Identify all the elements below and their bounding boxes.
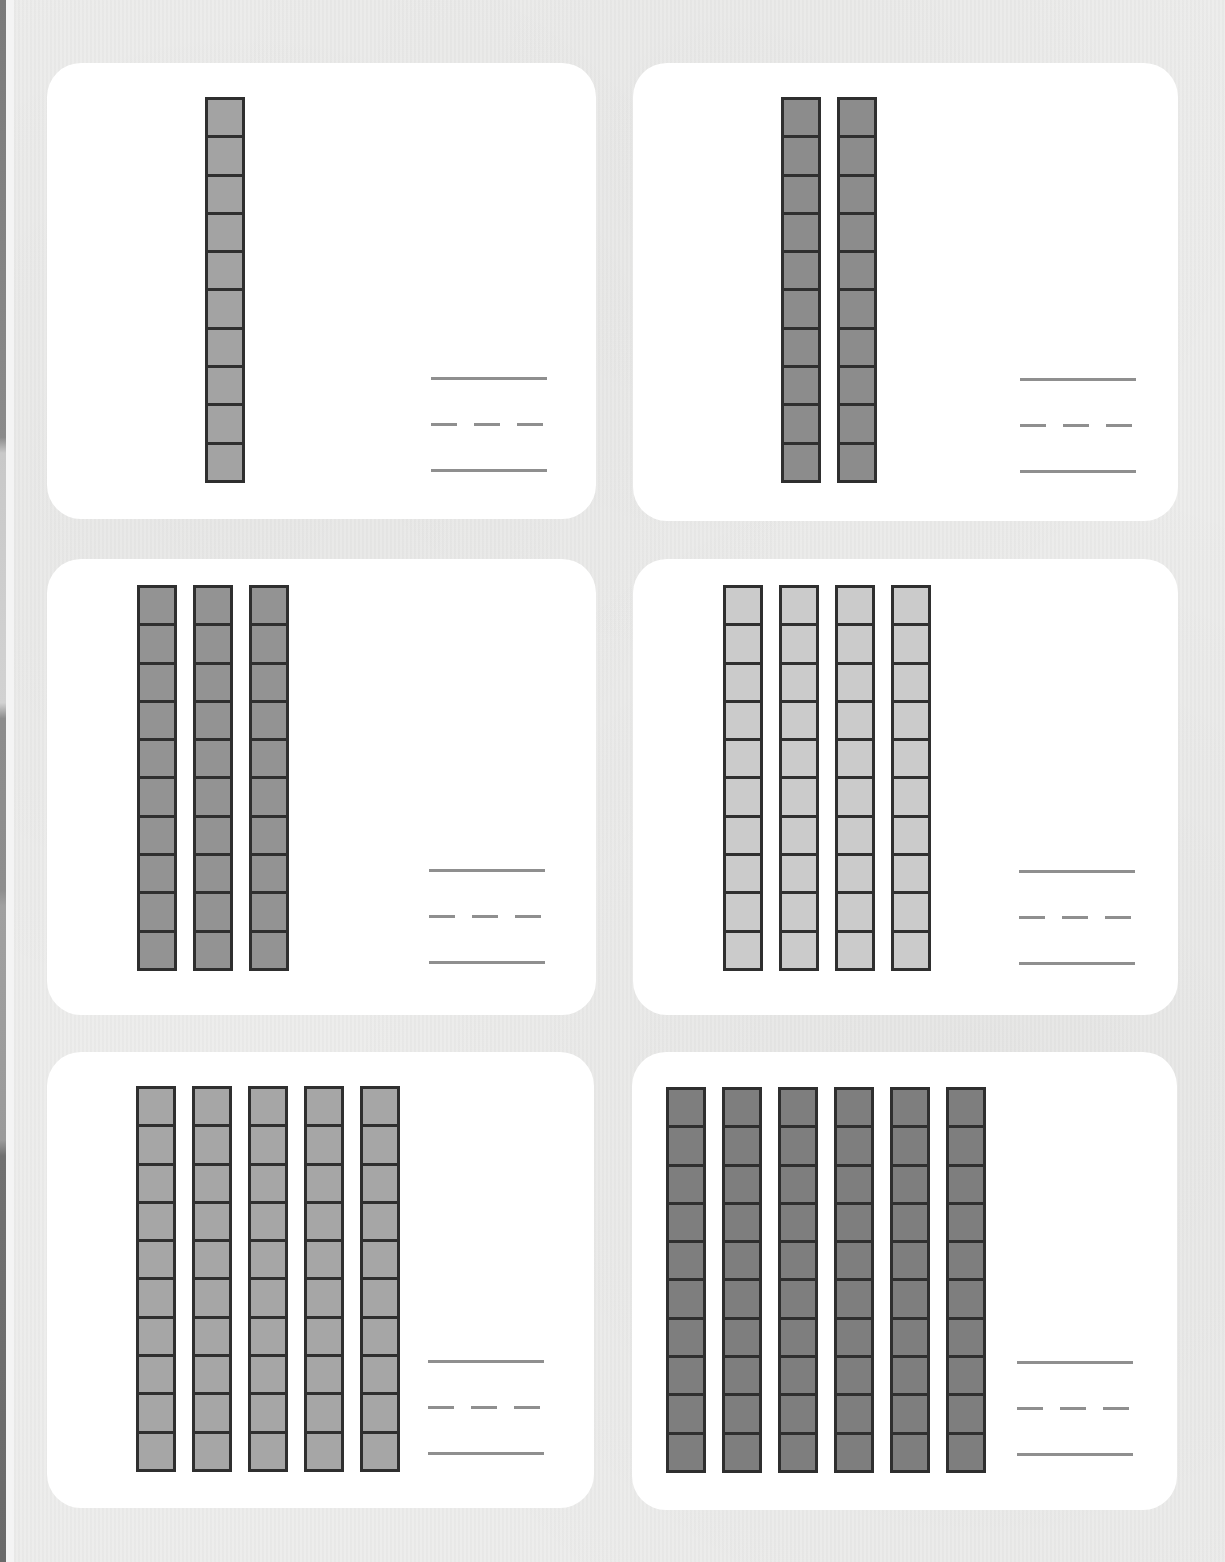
unit-cell xyxy=(307,1434,341,1469)
unit-cell xyxy=(307,1089,341,1127)
unit-cell xyxy=(725,1396,759,1434)
ten-rod xyxy=(205,97,245,483)
unit-cell xyxy=(781,1205,815,1243)
unit-cell xyxy=(252,588,286,626)
unit-cell xyxy=(252,626,286,664)
unit-cell xyxy=(363,1089,397,1127)
answer-line-dashed[interactable] xyxy=(428,1406,544,1409)
unit-cell xyxy=(725,1090,759,1128)
unit-cell xyxy=(782,894,816,932)
unit-cell xyxy=(781,1128,815,1166)
unit-cell xyxy=(726,894,760,932)
unit-cell xyxy=(725,1320,759,1358)
ten-rod xyxy=(136,1086,176,1472)
unit-cell xyxy=(307,1204,341,1242)
ten-rod xyxy=(137,585,177,971)
rod-group xyxy=(136,1086,400,1472)
unit-cell xyxy=(208,138,242,176)
unit-cell xyxy=(893,1320,927,1358)
unit-cell xyxy=(195,1395,229,1433)
unit-cell xyxy=(140,856,174,894)
unit-cell xyxy=(837,1435,871,1470)
ten-rod xyxy=(837,97,877,483)
unit-cell xyxy=(837,1320,871,1358)
unit-cell xyxy=(784,253,818,291)
unit-cell xyxy=(949,1396,983,1434)
answer-line-top[interactable] xyxy=(429,869,545,872)
unit-cell xyxy=(196,588,230,626)
answer-line-bottom[interactable] xyxy=(1017,1453,1133,1456)
answer-line-top[interactable] xyxy=(428,1360,544,1363)
answer-line-dashed[interactable] xyxy=(431,423,547,426)
unit-cell xyxy=(307,1166,341,1204)
unit-cell xyxy=(208,177,242,215)
unit-cell xyxy=(893,1435,927,1470)
unit-cell xyxy=(669,1205,703,1243)
unit-cell xyxy=(140,818,174,856)
unit-cell xyxy=(208,291,242,329)
ten-rod xyxy=(891,585,931,971)
unit-cell xyxy=(949,1128,983,1166)
unit-cell xyxy=(725,1243,759,1281)
unit-cell xyxy=(252,933,286,968)
unit-cell xyxy=(195,1127,229,1165)
answer-lines xyxy=(428,1360,544,1456)
unit-cell xyxy=(363,1319,397,1357)
unit-cell xyxy=(196,741,230,779)
unit-cell xyxy=(363,1280,397,1318)
answer-line-top[interactable] xyxy=(1017,1361,1133,1364)
unit-cell xyxy=(251,1089,285,1127)
answer-line-dashed[interactable] xyxy=(1019,916,1135,919)
answer-lines xyxy=(1017,1361,1133,1457)
answer-line-bottom[interactable] xyxy=(1020,470,1136,473)
unit-cell xyxy=(669,1358,703,1396)
unit-cell xyxy=(251,1434,285,1469)
unit-cell xyxy=(307,1242,341,1280)
unit-cell xyxy=(781,1090,815,1128)
answer-line-dashed[interactable] xyxy=(429,915,545,918)
ten-rod xyxy=(834,1087,874,1473)
unit-cell xyxy=(949,1167,983,1205)
ten-rod xyxy=(723,585,763,971)
answer-line-top[interactable] xyxy=(1019,870,1135,873)
rod-group xyxy=(723,585,931,971)
unit-cell xyxy=(251,1204,285,1242)
unit-cell xyxy=(837,1243,871,1281)
unit-cell xyxy=(840,138,874,176)
unit-cell xyxy=(837,1396,871,1434)
answer-line-bottom[interactable] xyxy=(429,961,545,964)
answer-line-bottom[interactable] xyxy=(1019,962,1135,965)
unit-cell xyxy=(784,100,818,138)
unit-cell xyxy=(196,665,230,703)
unit-cell xyxy=(195,1204,229,1242)
unit-cell xyxy=(726,779,760,817)
answer-line-top[interactable] xyxy=(1020,378,1136,381)
unit-cell xyxy=(726,665,760,703)
unit-cell xyxy=(894,818,928,856)
answer-line-bottom[interactable] xyxy=(431,469,547,472)
unit-cell xyxy=(894,588,928,626)
unit-cell xyxy=(784,406,818,444)
unit-cell xyxy=(782,856,816,894)
answer-lines xyxy=(1019,870,1135,966)
ten-rod xyxy=(779,585,819,971)
unit-cell xyxy=(139,1166,173,1204)
answer-line-top[interactable] xyxy=(431,377,547,380)
answer-line-bottom[interactable] xyxy=(428,1452,544,1455)
unit-cell xyxy=(307,1280,341,1318)
unit-cell xyxy=(837,1205,871,1243)
unit-cell xyxy=(893,1128,927,1166)
unit-cell xyxy=(838,588,872,626)
unit-cell xyxy=(208,445,242,480)
answer-line-dashed[interactable] xyxy=(1020,424,1136,427)
unit-cell xyxy=(140,665,174,703)
unit-cell xyxy=(725,1128,759,1166)
unit-cell xyxy=(893,1358,927,1396)
answer-line-dashed[interactable] xyxy=(1017,1407,1133,1410)
unit-cell xyxy=(840,177,874,215)
unit-cell xyxy=(195,1242,229,1280)
unit-cell xyxy=(784,177,818,215)
unit-cell xyxy=(725,1205,759,1243)
unit-cell xyxy=(837,1128,871,1166)
unit-cell xyxy=(726,856,760,894)
